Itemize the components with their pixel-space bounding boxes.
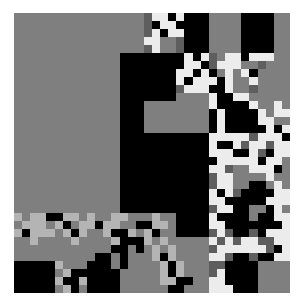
mosaic-cell [201, 205, 209, 213]
mosaic-cell [233, 253, 241, 261]
mosaic-cell [120, 213, 128, 221]
mosaic-cell [30, 125, 38, 133]
mosaic-cell [22, 269, 30, 277]
mosaic-cell [87, 77, 95, 85]
mosaic-cell [136, 93, 144, 101]
mosaic-cell [71, 109, 79, 117]
mosaic-cell [201, 61, 209, 69]
mosaic-cell [266, 29, 274, 37]
mosaic-cell [176, 109, 184, 117]
mosaic-cell [217, 53, 225, 61]
mosaic-cell [241, 205, 249, 213]
mosaic-cell [111, 21, 119, 29]
mosaic-cell [136, 109, 144, 117]
mosaic-cell [120, 269, 128, 277]
mosaic-cell [241, 269, 249, 277]
mosaic-cell [128, 173, 136, 181]
mosaic-cell [87, 125, 95, 133]
mosaic-cell [120, 61, 128, 69]
mosaic-cell [22, 29, 30, 37]
mosaic-cell [71, 69, 79, 77]
mosaic-cell [209, 213, 217, 221]
mosaic-cell [233, 213, 241, 221]
mosaic-cell [176, 21, 184, 29]
mosaic-cell [209, 149, 217, 157]
mosaic-cell [282, 13, 290, 21]
mosaic-cell [201, 149, 209, 157]
mosaic-cell [168, 13, 176, 21]
mosaic-cell [38, 237, 46, 245]
mosaic-cell [55, 77, 63, 85]
mosaic-cell [274, 149, 282, 157]
mosaic-cell [266, 173, 274, 181]
mosaic-cell [209, 21, 217, 29]
mosaic-cell [258, 237, 266, 245]
mosaic-cell [71, 61, 79, 69]
mosaic-cell [111, 221, 119, 229]
mosaic-cell [233, 229, 241, 237]
mosaic-cell [233, 277, 241, 285]
mosaic-cell [249, 189, 257, 197]
mosaic-cell [55, 61, 63, 69]
mosaic-cell [128, 141, 136, 149]
mosaic-cell [120, 85, 128, 93]
mosaic-cell [201, 117, 209, 125]
mosaic-cell [87, 53, 95, 61]
mosaic-cell [71, 141, 79, 149]
mosaic-cell [266, 61, 274, 69]
mosaic-cell [111, 29, 119, 37]
mosaic-cell [95, 45, 103, 53]
mosaic-cell [266, 205, 274, 213]
mosaic-cell [168, 173, 176, 181]
mosaic-cell [79, 173, 87, 181]
mosaic-cell [46, 189, 54, 197]
mosaic-cell [22, 109, 30, 117]
mosaic-cell [111, 101, 119, 109]
mosaic-cell [128, 29, 136, 37]
mosaic-cell [201, 125, 209, 133]
mosaic-cell [87, 197, 95, 205]
mosaic-cell [14, 189, 22, 197]
mosaic-cell [46, 93, 54, 101]
mosaic-cell [258, 213, 266, 221]
mosaic-cell [46, 197, 54, 205]
mosaic-cell [144, 61, 152, 69]
mosaic-cell [87, 269, 95, 277]
mosaic-cell [274, 229, 282, 237]
mosaic-cell [249, 61, 257, 69]
mosaic-cell [176, 125, 184, 133]
mosaic-cell [103, 13, 111, 21]
mosaic-cell [136, 173, 144, 181]
mosaic-cell [79, 109, 87, 117]
mosaic-cell [160, 197, 168, 205]
mosaic-cell [249, 77, 257, 85]
mosaic-cell [249, 85, 257, 93]
mosaic-cell [160, 53, 168, 61]
mosaic-cell [282, 285, 290, 293]
mosaic-cell [63, 205, 71, 213]
mosaic-cell [120, 101, 128, 109]
mosaic-cell [79, 77, 87, 85]
mosaic-cell [144, 237, 152, 245]
mosaic-cell [233, 205, 241, 213]
mosaic-cell [95, 13, 103, 21]
mosaic-cell [160, 37, 168, 45]
mosaic-cell [282, 181, 290, 189]
mosaic-cell [274, 101, 282, 109]
mosaic-cell [184, 117, 192, 125]
mosaic-cell [233, 237, 241, 245]
mosaic-cell [103, 245, 111, 253]
mosaic-cell [95, 237, 103, 245]
mosaic-cell [95, 21, 103, 29]
mosaic-cell [225, 61, 233, 69]
mosaic-cell [160, 45, 168, 53]
mosaic-cell [55, 37, 63, 45]
mosaic-cell [225, 45, 233, 53]
mosaic-cell [14, 237, 22, 245]
mosaic-cell [201, 261, 209, 269]
mosaic-cell [168, 45, 176, 53]
mosaic-cell [193, 29, 201, 37]
mosaic-cell [144, 125, 152, 133]
mosaic-cell [168, 237, 176, 245]
mosaic-cell [274, 285, 282, 293]
